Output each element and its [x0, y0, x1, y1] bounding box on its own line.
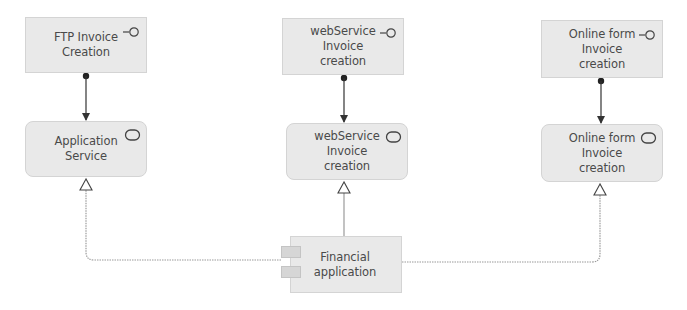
onlineform-invoice-creation-service[interactable]: Online form Invoice creation: [541, 124, 663, 182]
webservice-invoice-creation-service[interactable]: webService Invoice creation: [286, 123, 408, 180]
realization-edge-webservice-service[interactable]: [338, 182, 350, 236]
financial-application-component[interactable]: Financial application: [290, 236, 402, 293]
node-label: Online form Invoice creation: [569, 131, 635, 176]
webservice-invoice-creation-interface[interactable]: webService Invoice creation: [282, 18, 404, 75]
node-label: Financial application: [314, 250, 376, 280]
interface-icon: [122, 26, 142, 38]
node-label: FTP Invoice Creation: [54, 30, 118, 60]
service-icon: [640, 132, 658, 144]
component-tab-bottom-icon: [281, 266, 301, 278]
onlineform-invoice-creation-interface[interactable]: Online form Invoice creation: [541, 20, 663, 78]
node-label: webService Invoice creation: [310, 24, 375, 69]
service-icon: [385, 131, 403, 143]
interface-icon: [638, 29, 658, 41]
assignment-edge-onlineform[interactable]: [598, 78, 604, 123]
application-service-node[interactable]: Application Service: [25, 121, 147, 177]
realization-edge-application-service[interactable]: [80, 179, 281, 260]
assignment-edge-ftp[interactable]: [83, 73, 89, 120]
interface-icon: [379, 27, 399, 39]
node-label: Online form Invoice creation: [569, 27, 635, 72]
node-label: webService Invoice creation: [314, 129, 379, 174]
diagram-canvas: FTP Invoice Creation webService Invoice …: [0, 0, 687, 310]
service-icon: [124, 129, 142, 141]
ftp-invoice-creation-interface[interactable]: FTP Invoice Creation: [25, 17, 147, 73]
node-label: Application Service: [54, 134, 117, 164]
assignment-edge-webservice[interactable]: [341, 75, 347, 122]
realization-edge-onlineform-service[interactable]: [402, 184, 606, 262]
component-tab-top-icon: [281, 246, 301, 258]
